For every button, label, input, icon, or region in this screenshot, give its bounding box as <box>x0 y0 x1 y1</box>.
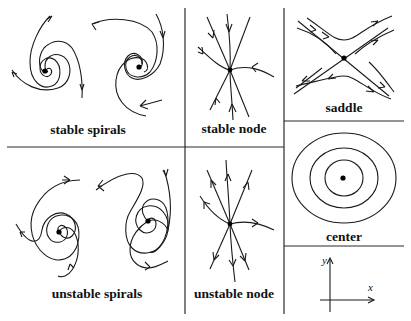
x-axis-label: x <box>367 281 373 293</box>
panel-saddle: saddle <box>294 16 394 115</box>
axes-legend: y x <box>320 254 374 312</box>
unstable-spiral-right <box>96 169 171 270</box>
panel-unstable-node: unstable node <box>194 160 274 301</box>
fixed-point <box>340 175 345 180</box>
fixed-point <box>145 218 150 223</box>
fixed-point <box>228 222 233 227</box>
y-axis-label: y <box>321 254 327 266</box>
stable-spiral-left <box>12 16 84 98</box>
phase-portrait-diagram: stable spirals stable node saddle <box>0 0 411 321</box>
fixed-point <box>228 68 233 73</box>
fixed-point <box>42 68 47 73</box>
label-stable-spirals: stable spirals <box>50 122 125 137</box>
panel-center: center <box>292 133 396 244</box>
panel-unstable-spirals: unstable spirals <box>16 169 171 301</box>
label-unstable-node: unstable node <box>194 286 274 301</box>
fixed-point <box>56 229 61 234</box>
label-saddle: saddle <box>326 100 363 115</box>
unstable-spiral-left <box>16 176 80 277</box>
panel-stable-spirals: stable spirals <box>12 14 165 137</box>
label-stable-node: stable node <box>202 121 267 136</box>
stable-spiral-right <box>92 14 165 116</box>
label-unstable-spirals: unstable spirals <box>52 286 142 301</box>
panel-stable-node: stable node <box>198 14 274 136</box>
label-center: center <box>326 229 362 244</box>
fixed-point <box>136 64 141 69</box>
fixed-point <box>341 55 346 60</box>
